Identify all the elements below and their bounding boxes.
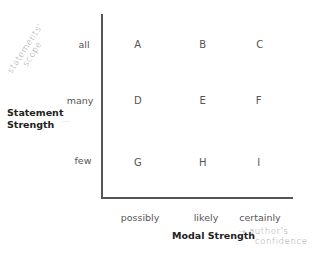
col-label-certainly: certainly: [239, 212, 280, 223]
cell-d: D: [134, 95, 142, 106]
cell-e: E: [200, 95, 207, 106]
cell-a: A: [134, 39, 141, 50]
cell-b: B: [199, 39, 206, 50]
cell-c: C: [256, 39, 263, 50]
x-axis-annotation: → author's confidence: [238, 226, 308, 246]
x-axis-line: [101, 197, 293, 199]
y-axis-line: [101, 14, 103, 199]
x-axis-annotation-line1: author's: [249, 226, 289, 236]
x-axis-annotation-line2: confidence: [238, 236, 308, 246]
row-label-few: few: [75, 155, 92, 166]
arrow-right-icon: →: [238, 226, 246, 236]
cell-f: F: [256, 95, 262, 106]
y-axis-annotation: statements' scope: [6, 22, 52, 80]
col-label-likely: likely: [194, 212, 219, 223]
scan-artifact: [62, 121, 70, 122]
cell-i: I: [257, 157, 260, 168]
row-label-all: all: [78, 39, 89, 50]
y-axis-title: Statement Strength: [7, 107, 63, 131]
col-label-possibly: possibly: [121, 212, 160, 223]
cell-h: H: [199, 157, 207, 168]
cell-g: G: [134, 157, 142, 168]
row-label-many: many: [67, 95, 94, 106]
y-axis-title-line2: Strength: [7, 119, 63, 131]
y-axis-title-line1: Statement: [7, 107, 63, 119]
